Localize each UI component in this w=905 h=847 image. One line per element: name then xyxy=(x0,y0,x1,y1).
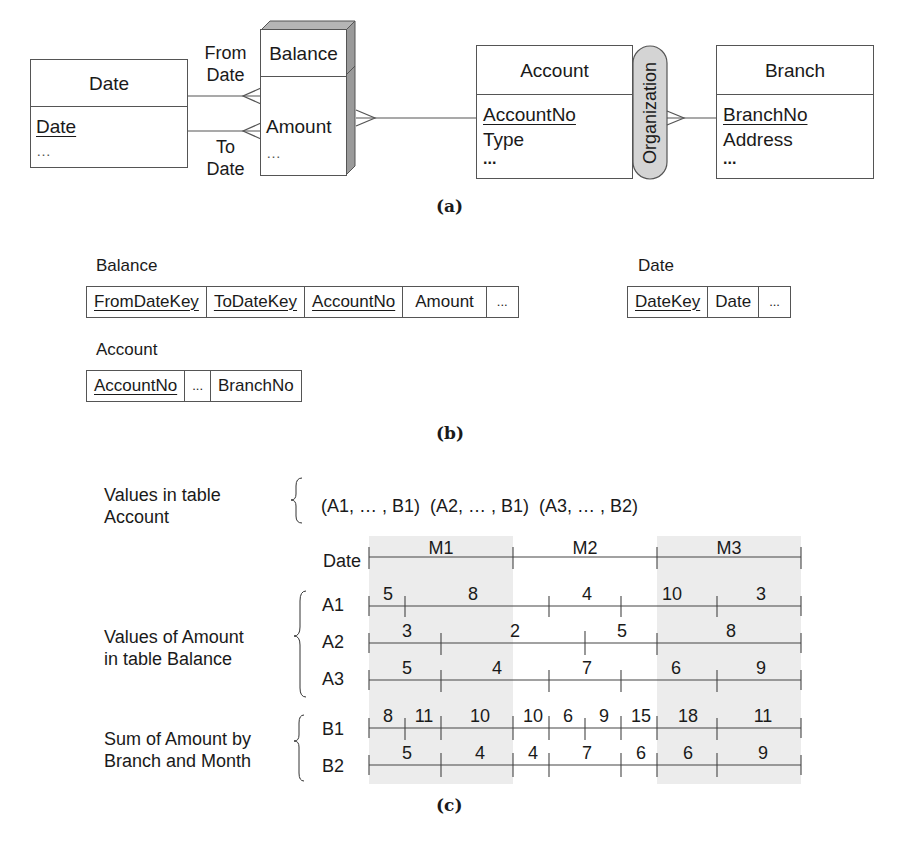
segment-value: 8 xyxy=(726,621,736,642)
segment-value: 4 xyxy=(492,658,502,679)
row-label-b1: B1 xyxy=(322,718,344,740)
segment-value: 4 xyxy=(582,584,592,605)
segment-value: 9 xyxy=(599,706,609,727)
month-label: M3 xyxy=(716,538,741,559)
segment-value: 11 xyxy=(754,706,773,727)
segment-value: 10 xyxy=(523,706,543,727)
segment-value: 2 xyxy=(510,621,520,642)
segment-value: 6 xyxy=(671,658,681,679)
segment-value: 9 xyxy=(756,658,766,679)
segment-value: 6 xyxy=(563,706,573,727)
segment-value: 8 xyxy=(468,584,478,605)
segment-value: 11 xyxy=(415,706,434,727)
date-axis-label: Date xyxy=(323,550,361,572)
segment-value: 3 xyxy=(756,584,766,605)
segment-value: 9 xyxy=(758,743,768,764)
segment-value: 5 xyxy=(383,584,393,605)
caption-c: (c) xyxy=(436,795,462,815)
segment-value: 6 xyxy=(683,743,693,764)
segment-value: 10 xyxy=(470,706,490,727)
month-label: M1 xyxy=(428,538,453,559)
segment-value: 4 xyxy=(475,743,485,764)
sum-values-label: Sum of Amount by Branch and Month xyxy=(104,728,251,772)
segment-value: 10 xyxy=(662,584,682,605)
row-label-b2: B2 xyxy=(322,755,344,777)
row-label-a3: A3 xyxy=(322,668,344,690)
segment-value: 5 xyxy=(402,658,412,679)
segment-value: 15 xyxy=(631,706,651,727)
segment-value: 18 xyxy=(678,706,698,727)
segment-value: 4 xyxy=(528,743,538,764)
segment-value: 6 xyxy=(636,743,646,764)
segment-value: 7 xyxy=(582,658,592,679)
month-label: M2 xyxy=(572,538,597,559)
segment-value: 5 xyxy=(402,743,412,764)
row-label-a1: A1 xyxy=(322,594,344,616)
segment-value: 3 xyxy=(402,621,412,642)
segment-value: 8 xyxy=(383,706,393,727)
balance-values-label: Values of Amount in table Balance xyxy=(104,626,244,670)
row-label-a2: A2 xyxy=(322,631,344,653)
segment-value: 5 xyxy=(617,621,627,642)
segment-value: 7 xyxy=(582,743,592,764)
